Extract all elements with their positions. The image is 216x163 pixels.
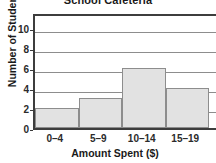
bar	[166, 88, 210, 128]
y-tick-label: 6	[13, 65, 29, 75]
y-tick-label: 0	[13, 125, 29, 135]
y-axis-tick-labels: 0246810	[12, 0, 29, 163]
bar	[79, 98, 123, 128]
chart-figure: School Cafeteria Number of Students 0246…	[0, 0, 216, 163]
x-tick-label: 10–14	[128, 133, 156, 144]
bar	[122, 68, 166, 128]
x-tick-label: 5–9	[90, 133, 107, 144]
y-tick-label: 2	[13, 105, 29, 115]
y-tick-mark	[30, 130, 33, 131]
bar-series	[35, 16, 216, 128]
x-tick-label: 15–19	[171, 133, 199, 144]
y-tick-label: 4	[13, 85, 29, 95]
y-tick-label: 8	[13, 45, 29, 55]
bar	[35, 108, 79, 128]
y-tick-label: 10	[13, 25, 29, 35]
x-axis-tick-labels: 0–45–910–1415–19	[33, 133, 216, 147]
x-tick-label: 0–4	[46, 133, 63, 144]
plot-area	[33, 14, 216, 130]
x-axis-title: Amount Spent ($)	[16, 147, 214, 159]
